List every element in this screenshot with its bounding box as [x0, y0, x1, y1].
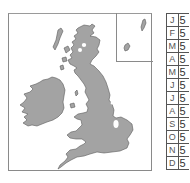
month-cell: J	[167, 92, 179, 105]
highland-highlight-2	[78, 48, 82, 52]
table-row: N5	[167, 144, 190, 157]
table-row: J5	[167, 92, 190, 105]
western-isles	[53, 28, 63, 50]
month-cell: J	[167, 79, 179, 92]
value-cell: 5	[178, 92, 189, 105]
month-cell: F	[167, 27, 179, 40]
wash-highlight	[113, 120, 118, 128]
month-cell: A	[167, 105, 179, 118]
table-row: F5	[167, 27, 190, 40]
table-row: J5	[167, 14, 190, 27]
isle-of-man-island	[75, 90, 78, 96]
value-cell: 5	[178, 27, 189, 40]
value-cell: 5	[178, 14, 189, 27]
value-cell: 5	[178, 66, 189, 79]
british-isles-map	[0, 0, 189, 183]
value-cell: 5	[178, 157, 189, 170]
table-row: S5	[167, 118, 190, 131]
month-cell: N	[167, 144, 179, 157]
value-cell: 5	[178, 131, 189, 144]
table-row: M5	[167, 40, 190, 53]
month-cell: M	[167, 66, 179, 79]
table-row: A5	[167, 105, 190, 118]
month-cell: A	[167, 53, 179, 66]
table-row: J5	[167, 79, 190, 92]
value-cell: 5	[178, 144, 189, 157]
table-row: M5	[167, 66, 190, 79]
islay-island	[60, 65, 64, 70]
ireland-landmass	[20, 77, 65, 126]
value-cell: 5	[178, 79, 189, 92]
month-cell: J	[167, 14, 179, 27]
highland-highlight-1	[82, 43, 86, 47]
month-cell: S	[167, 118, 179, 131]
table-row: A5	[167, 53, 190, 66]
month-cell: D	[167, 157, 179, 170]
month-value-table: J5 F5 M5 A5 M5 J5 J5 A5 S5 O5 N5 D5	[166, 13, 189, 170]
month-cell: M	[167, 40, 179, 53]
anglesey-island	[70, 103, 75, 108]
table-row: O5	[167, 131, 190, 144]
skye-island	[64, 46, 70, 53]
mull-island	[62, 57, 67, 62]
month-cell: O	[167, 131, 179, 144]
value-cell: 5	[178, 118, 189, 131]
table-row: D5	[167, 157, 190, 170]
value-cell: 5	[178, 105, 189, 118]
inset-box	[116, 13, 153, 62]
yorkshire-highlight	[111, 101, 114, 104]
value-cell: 5	[178, 40, 189, 53]
value-cell: 5	[178, 53, 189, 66]
